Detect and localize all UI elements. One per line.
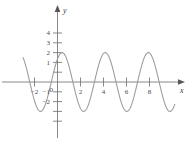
origin-label: 0 bbox=[50, 86, 54, 94]
y-tick-label-3: 3 bbox=[47, 39, 51, 47]
y-tick-label-2: 2 bbox=[47, 49, 51, 57]
x-tick-label-8: 8 bbox=[148, 88, 152, 96]
y-tick-label-neg2: −2 bbox=[43, 98, 51, 106]
y-tick-label-4: 4 bbox=[47, 29, 51, 37]
y-axis-label: y bbox=[62, 6, 67, 15]
x-tick-label-2: 2 bbox=[79, 88, 83, 96]
x-axis-label: x bbox=[179, 86, 184, 95]
x-tick-label-4: 4 bbox=[102, 88, 106, 96]
x-tick-label-6: 6 bbox=[125, 88, 129, 96]
sinusoid-plot: −2 2 4 6 8 4 3 2 1 −1 −2 0 y x bbox=[0, 0, 195, 148]
y-axis bbox=[55, 5, 61, 138]
x-tick-label-neg2: −2 bbox=[31, 88, 39, 96]
graph-figure: −2 2 4 6 8 4 3 2 1 −1 −2 0 y x bbox=[0, 0, 195, 148]
y-tick-label-1: 1 bbox=[47, 59, 51, 67]
